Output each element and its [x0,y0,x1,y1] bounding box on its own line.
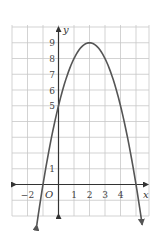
x-tick-label: 2 [87,190,93,200]
y-tick-label: 9 [49,38,55,48]
x-tick-label: 3 [102,190,108,200]
y-tick-label: 7 [49,70,55,80]
x-tick-label: 4 [118,190,124,200]
x-tick-label: 1 [71,190,77,200]
y-tick-label: 1 [49,164,55,174]
parabola-graph: −21234156789 x y O [0,0,159,238]
origin-label: O [45,189,53,200]
grid [12,25,149,216]
y-tick-label: 6 [49,86,55,96]
y-axis-label: y [62,24,69,35]
y-tick-label: 8 [49,54,55,64]
x-axis-label: x [143,189,149,200]
x-tick-label: −2 [21,190,34,200]
y-tick-label: 5 [49,101,55,111]
